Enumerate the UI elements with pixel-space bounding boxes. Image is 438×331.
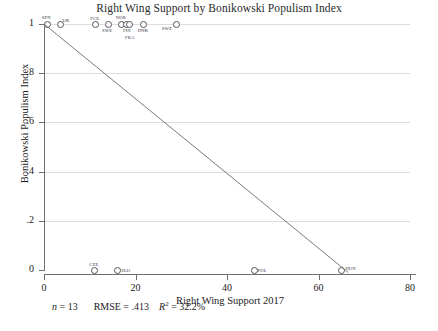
- x-tick-label: 60: [299, 282, 339, 293]
- x-tick: [319, 274, 320, 280]
- x-tick: [227, 274, 228, 280]
- y-tick: [39, 172, 45, 173]
- rmse-label: RMSE =: [94, 301, 129, 312]
- x-tick: [44, 274, 45, 280]
- scatter-point-label: SWE: [102, 28, 112, 33]
- chart-container: Right Wing Support by Bonikowski Populis…: [0, 0, 438, 331]
- n-label: n: [52, 301, 57, 312]
- chart-title: Right Wing Support by Bonikowski Populis…: [0, 2, 438, 14]
- data-points-layer: SPNUKFCESWENORFINFRADNKSWZCZESLOPOLHUN: [44, 24, 410, 270]
- scatter-point: [338, 267, 345, 274]
- scatter-point: [126, 21, 133, 28]
- scatter-point-label: CZE: [89, 262, 98, 267]
- rmse-value: .413: [132, 301, 150, 312]
- x-tick: [136, 274, 137, 280]
- scatter-point: [251, 267, 258, 274]
- scatter-point-label: FIN: [123, 28, 131, 33]
- scatter-point-label: HUN: [345, 266, 355, 271]
- fit-statistics: n = 13 RMSE = .413 R2 = 32.2%: [52, 300, 205, 312]
- scatter-point: [173, 21, 180, 28]
- scatter-point-label: SPN: [42, 15, 51, 20]
- scatter-point: [91, 267, 98, 274]
- x-tick-label: 40: [207, 282, 247, 293]
- y-axis-label: Bonikowski Populism Index: [19, 14, 30, 234]
- scatter-point: [140, 21, 147, 28]
- r2-superscript: 2: [165, 300, 169, 308]
- x-tick-label: 20: [116, 282, 156, 293]
- scatter-point-label: SLO: [121, 268, 130, 273]
- y-tick: [39, 221, 45, 222]
- plot-area: SPNUKFCESWENORFINFRADNKSWZCZESLOPOLHUN: [44, 24, 410, 270]
- scatter-point-label: FCE: [90, 16, 99, 21]
- x-axis-line: [44, 274, 416, 275]
- y-tick: [39, 122, 45, 123]
- scatter-point-label: SWZ: [162, 26, 172, 31]
- scatter-point: [114, 267, 121, 274]
- y-tick-label: 0: [2, 263, 34, 274]
- scatter-point-label: UK: [63, 18, 70, 23]
- scatter-point-label: NOR: [116, 15, 126, 20]
- r2-value: = 32.2%: [171, 301, 205, 312]
- y-tick: [39, 270, 45, 271]
- x-tick-label: 80: [390, 282, 430, 293]
- scatter-point: [105, 21, 112, 28]
- scatter-point-label: POL: [258, 268, 267, 273]
- y-tick: [39, 73, 45, 74]
- cut-off-caption: [36, 326, 336, 331]
- x-tick-label: 0: [24, 282, 64, 293]
- x-tick: [410, 274, 411, 280]
- scatter-point-label: FRA: [125, 35, 134, 40]
- y-tick: [39, 24, 45, 25]
- scatter-point: [92, 21, 99, 28]
- y-axis-line: [44, 24, 45, 271]
- scatter-point-label: DNK: [138, 28, 148, 33]
- n-value: = 13: [60, 301, 78, 312]
